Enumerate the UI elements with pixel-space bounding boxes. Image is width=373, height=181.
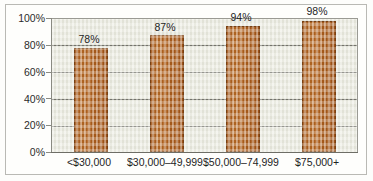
- y-tick-label-80: 80%: [24, 40, 45, 50]
- y-axis-line: [51, 18, 52, 153]
- y-tick-label-20: 20%: [24, 120, 45, 130]
- bar-value-label-under-30000: 78%: [54, 34, 124, 45]
- chart-screenshot: 100% 80% 60% 40% 20% 0% 78% 87: [0, 0, 373, 181]
- y-tick-label-60: 60%: [24, 67, 45, 77]
- y-tick-label-0: 0%: [30, 147, 45, 157]
- y-tick-label-40: 40%: [24, 94, 45, 104]
- bar-50000-74999[interactable]: [226, 26, 260, 152]
- bar-value-label-50000-74999: 94%: [206, 12, 276, 23]
- bar-chart: 100% 80% 60% 40% 20% 0% 78% 87: [0, 0, 373, 181]
- bar-75000-plus[interactable]: [302, 21, 336, 152]
- bar-under-30000[interactable]: [74, 48, 108, 153]
- x-category-label-75000-plus: $75,000+: [272, 156, 362, 168]
- y-tick-label-100: 100%: [18, 13, 45, 23]
- y-axis-labels: 100% 80% 60% 40% 20% 0%: [0, 0, 45, 181]
- x-axis-line: [51, 152, 358, 153]
- bar-value-label-30000-49999: 87%: [130, 22, 200, 33]
- bar-value-label-75000-plus: 98%: [282, 6, 352, 17]
- bar-30000-49999[interactable]: [150, 35, 184, 152]
